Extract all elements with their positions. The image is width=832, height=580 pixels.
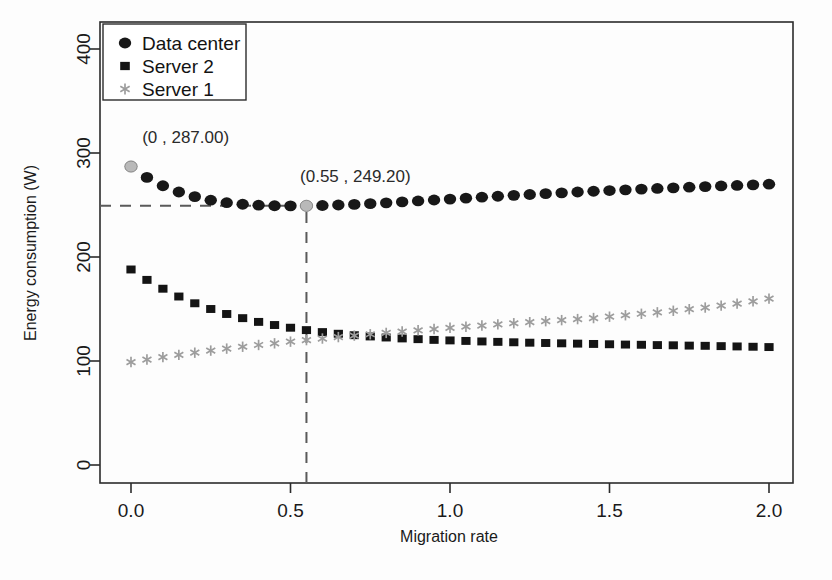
annotation-highlight-point-0: [125, 161, 137, 172]
point-data-center: [731, 180, 743, 191]
point-data-center: [508, 190, 520, 201]
point-server-2: [286, 324, 295, 332]
point-server-2: [461, 337, 470, 345]
point-server-2: [557, 339, 566, 347]
point-server-2: [621, 341, 630, 349]
annotation-highlight-point-1: [300, 200, 312, 211]
point-server-1: [446, 323, 455, 333]
x-tick-label-1.5: 1.5: [596, 500, 622, 521]
point-server-2: [238, 314, 247, 322]
point-data-center: [444, 194, 456, 205]
point-data-center: [699, 181, 711, 192]
point-server-2: [733, 342, 742, 350]
point-server-2: [589, 340, 598, 348]
point-server-2: [302, 326, 311, 334]
point-server-1: [190, 347, 199, 357]
point-data-center: [667, 182, 679, 193]
point-data-center: [252, 200, 264, 211]
point-server-1: [493, 319, 502, 329]
point-data-center: [364, 198, 376, 209]
point-server-2: [541, 339, 550, 347]
point-server-1: [142, 354, 151, 364]
point-server-1: [541, 316, 550, 326]
point-server-2: [142, 276, 151, 284]
point-server-2: [158, 285, 167, 293]
point-server-1: [222, 343, 231, 353]
point-data-center: [348, 199, 360, 210]
y-tick-label-0: 0: [73, 460, 94, 471]
point-data-center: [635, 184, 647, 195]
point-server-1: [765, 293, 774, 303]
point-server-1: [206, 345, 215, 355]
point-server-1: [573, 314, 582, 324]
point-server-2: [573, 340, 582, 348]
legend-label-data-center: Data center: [142, 33, 241, 54]
point-server-2: [190, 299, 199, 307]
legend-label-server-1: Server 1: [142, 79, 214, 100]
point-data-center: [460, 193, 472, 204]
annotation-label-0: (0 , 287.00): [142, 128, 229, 147]
point-server-1: [653, 307, 662, 317]
point-data-center: [540, 188, 552, 199]
point-data-center: [157, 180, 169, 191]
point-server-1: [637, 309, 646, 319]
point-server-2: [717, 342, 726, 350]
point-server-1: [158, 352, 167, 362]
legend-marker-server-2: [120, 62, 130, 70]
point-server-2: [429, 336, 438, 344]
point-server-2: [270, 321, 279, 329]
point-server-2: [174, 293, 183, 301]
point-data-center: [380, 197, 392, 208]
point-server-1: [430, 324, 439, 334]
point-server-2: [653, 341, 662, 349]
point-server-2: [493, 338, 502, 346]
energy-consumption-chart: 01002003004000.00.51.01.52.0Migration ra…: [0, 0, 832, 580]
point-data-center: [428, 195, 440, 206]
point-server-2: [509, 338, 518, 346]
point-server-2: [126, 266, 135, 274]
point-server-2: [206, 305, 215, 313]
point-data-center: [619, 184, 631, 195]
point-data-center: [316, 200, 328, 211]
point-server-1: [701, 302, 710, 312]
point-server-2: [685, 342, 694, 350]
point-server-2: [445, 336, 454, 344]
point-server-1: [557, 315, 566, 325]
point-server-1: [605, 312, 614, 322]
point-server-2: [669, 341, 678, 349]
point-server-1: [749, 296, 758, 306]
point-data-center: [396, 196, 408, 207]
point-data-center: [236, 199, 248, 210]
point-server-1: [174, 350, 183, 360]
point-data-center: [603, 185, 615, 196]
point-data-center: [555, 187, 567, 198]
chart-figure: 01002003004000.00.51.01.52.0Migration ra…: [0, 0, 832, 580]
point-server-2: [748, 343, 757, 351]
point-data-center: [476, 192, 488, 203]
point-server-1: [477, 320, 486, 330]
point-data-center: [284, 200, 296, 211]
point-server-1: [127, 357, 136, 367]
point-data-center: [268, 200, 280, 211]
point-data-center: [205, 195, 217, 206]
point-data-center: [683, 182, 695, 193]
y-tick-label-400: 400: [73, 33, 94, 65]
point-data-center: [715, 181, 727, 192]
y-tick-label-200: 200: [73, 241, 94, 273]
y-axis-title: Energy consumption (W): [22, 165, 39, 341]
point-server-1: [414, 325, 423, 335]
legend-label-server-2: Server 2: [142, 56, 214, 77]
point-server-1: [254, 340, 263, 350]
point-data-center: [747, 179, 759, 190]
point-data-center: [221, 197, 233, 208]
point-server-1: [302, 335, 311, 345]
point-server-2: [764, 343, 773, 351]
x-tick-label-0.0: 0.0: [118, 500, 144, 521]
x-axis-title: Migration rate: [400, 528, 498, 545]
point-data-center: [492, 191, 504, 202]
y-tick-label-300: 300: [73, 137, 94, 169]
point-server-2: [222, 310, 231, 318]
point-server-1: [621, 310, 630, 320]
point-data-center: [587, 186, 599, 197]
point-data-center: [524, 189, 536, 200]
